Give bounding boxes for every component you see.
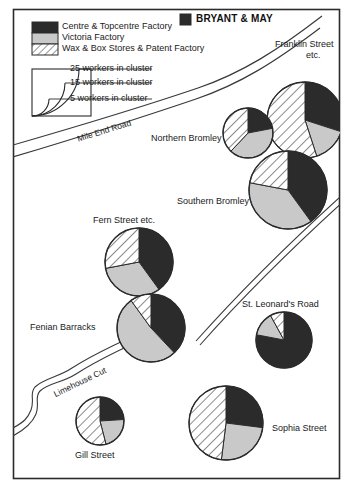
pie-southern-bromley: [249, 151, 327, 229]
pie-slice-centre-topcentre: [226, 386, 263, 428]
place-label-gill-street: Gill Street: [75, 450, 115, 461]
place-label-southern-bromley: Southern Bromley: [177, 196, 249, 207]
place-label-st-leonards-road: St. Leonard's Road: [242, 299, 319, 310]
pie-franklin-street-etc: [267, 82, 343, 158]
pie-slice-victoria: [221, 423, 262, 460]
pie-gill-street: [76, 397, 124, 445]
scale-label-25: 25 workers in cluster: [70, 63, 153, 73]
pie-slice-wax-box-patent: [105, 228, 139, 268]
legend-label-centre: Centre & Topcentre Factory: [62, 21, 172, 31]
legend-swatch-centre: [32, 22, 58, 33]
pie-slice-wax-box-patent: [189, 386, 226, 460]
place-label-northern-bromley: Northern Bromley: [151, 133, 222, 144]
place-label-franklin-street-etc: etc.: [306, 50, 321, 61]
map-figure: Centre & Topcentre Factory Victoria Fact…: [0, 0, 353, 488]
figure-title: BRYANT & MAY: [196, 13, 273, 24]
pie-fern-street-etc: [105, 228, 173, 296]
legend-label-wax: Wax & Box Stores & Patent Factory: [62, 43, 204, 53]
pie-northern-bromley: [223, 108, 273, 158]
title-swatch: [180, 14, 191, 25]
map-canvas: [0, 0, 353, 488]
pie-fenian-barracks: [117, 294, 185, 362]
scale-label-5: 5 workers in cluster: [70, 93, 148, 103]
place-label-sophia-street: Sophia Street: [272, 423, 327, 434]
place-label-fern-street: Fern Street etc.: [93, 215, 155, 226]
place-label-franklin-street: Franklin Street: [275, 39, 334, 50]
legend-swatch-victoria: [32, 33, 58, 44]
place-label-fenian-barracks: Fenian Barracks: [30, 322, 96, 333]
pie-st-leonard-s-road: [256, 312, 312, 368]
legend-label-victoria: Victoria Factory: [62, 32, 124, 42]
legend-swatch-wax: [32, 44, 58, 55]
scale-label-15: 15 workers in cluster: [70, 77, 153, 87]
pie-sophia-street: [189, 386, 263, 460]
